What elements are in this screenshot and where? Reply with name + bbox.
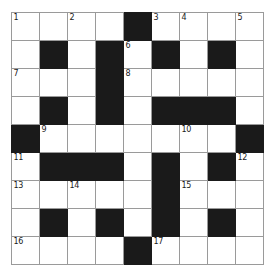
crossword-row: 131415 <box>12 181 264 209</box>
crossword-block-cell <box>96 69 124 97</box>
crossword-block-cell <box>208 153 236 181</box>
crossword-block-cell <box>96 209 124 237</box>
crossword-cell[interactable] <box>208 125 236 153</box>
crossword-cell[interactable] <box>180 237 208 265</box>
crossword-cell[interactable] <box>180 153 208 181</box>
cell-number-10: 10 <box>182 125 192 134</box>
crossword-block-cell <box>96 41 124 69</box>
crossword-block-cell <box>96 153 124 181</box>
crossword-cell[interactable] <box>236 69 264 97</box>
crossword-cell[interactable]: 16 <box>12 237 40 265</box>
crossword-cell[interactable]: 8 <box>124 69 152 97</box>
crossword-cell[interactable]: 5 <box>236 13 264 41</box>
crossword-cell[interactable] <box>208 69 236 97</box>
crossword-cell[interactable] <box>68 69 96 97</box>
crossword-block-cell <box>96 97 124 125</box>
crossword-row: 1617 <box>12 237 264 265</box>
crossword-cell[interactable] <box>124 97 152 125</box>
crossword-cell[interactable]: 7 <box>12 69 40 97</box>
crossword-block-cell <box>208 41 236 69</box>
crossword-cell[interactable] <box>96 13 124 41</box>
crossword-block-cell <box>68 153 96 181</box>
crossword-cell[interactable]: 11 <box>12 153 40 181</box>
crossword-cell[interactable] <box>236 181 264 209</box>
crossword-cell[interactable] <box>40 181 68 209</box>
cell-number-9: 9 <box>42 125 47 134</box>
crossword-grid[interactable]: 1234567891011121314151617 <box>11 12 264 265</box>
crossword-block-cell <box>152 41 180 69</box>
crossword-cell[interactable] <box>12 209 40 237</box>
crossword-block-cell <box>208 97 236 125</box>
crossword-row <box>12 209 264 237</box>
crossword-cell[interactable] <box>236 97 264 125</box>
crossword-block-cell <box>124 237 152 265</box>
crossword-cell[interactable]: 12 <box>236 153 264 181</box>
crossword-block-cell <box>180 97 208 125</box>
crossword-cell[interactable] <box>180 41 208 69</box>
crossword-cell[interactable] <box>208 181 236 209</box>
crossword-cell[interactable]: 14 <box>68 181 96 209</box>
crossword-cell[interactable] <box>68 125 96 153</box>
crossword-block-cell <box>208 209 236 237</box>
crossword-cell[interactable] <box>68 237 96 265</box>
crossword-cell[interactable]: 4 <box>180 13 208 41</box>
cell-number-5: 5 <box>238 13 243 22</box>
crossword-block-cell <box>12 125 40 153</box>
crossword-cell[interactable]: 10 <box>180 125 208 153</box>
crossword-cell[interactable] <box>152 125 180 153</box>
crossword-block-cell <box>124 13 152 41</box>
crossword-cell[interactable]: 13 <box>12 181 40 209</box>
cell-number-7: 7 <box>14 69 19 78</box>
crossword-cell[interactable]: 6 <box>124 41 152 69</box>
crossword-cell[interactable] <box>180 69 208 97</box>
crossword-cell[interactable] <box>236 237 264 265</box>
crossword-cell[interactable] <box>40 237 68 265</box>
crossword-cell[interactable] <box>40 69 68 97</box>
crossword-cell[interactable]: 1 <box>12 13 40 41</box>
crossword-cell[interactable]: 9 <box>40 125 68 153</box>
crossword-cell[interactable] <box>180 209 208 237</box>
crossword-cell[interactable] <box>124 181 152 209</box>
crossword-cell[interactable] <box>96 237 124 265</box>
crossword-cell[interactable] <box>40 13 68 41</box>
crossword-cell[interactable] <box>68 209 96 237</box>
crossword-cell[interactable] <box>124 209 152 237</box>
crossword-row: 6 <box>12 41 264 69</box>
crossword-row: 12345 <box>12 13 264 41</box>
crossword-cell[interactable] <box>208 13 236 41</box>
crossword-cell[interactable] <box>12 97 40 125</box>
cell-number-1: 1 <box>14 13 19 22</box>
crossword-cell[interactable] <box>208 237 236 265</box>
crossword-block-cell <box>152 181 180 209</box>
crossword-block-cell <box>152 153 180 181</box>
crossword-block-cell <box>236 125 264 153</box>
crossword-block-cell <box>152 97 180 125</box>
crossword-cell[interactable] <box>96 125 124 153</box>
crossword-grid-body: 1234567891011121314151617 <box>12 13 264 265</box>
cell-number-14: 14 <box>70 181 80 190</box>
cell-number-2: 2 <box>70 13 75 22</box>
crossword-cell[interactable] <box>96 181 124 209</box>
crossword-cell[interactable] <box>68 97 96 125</box>
crossword-cell[interactable]: 15 <box>180 181 208 209</box>
crossword-cell[interactable] <box>124 125 152 153</box>
cell-number-13: 13 <box>14 181 24 190</box>
crossword-block-cell <box>40 153 68 181</box>
crossword-cell[interactable] <box>12 41 40 69</box>
crossword-cell[interactable] <box>236 41 264 69</box>
crossword-cell[interactable]: 17 <box>152 237 180 265</box>
cell-number-3: 3 <box>154 13 159 22</box>
crossword-cell[interactable] <box>236 209 264 237</box>
crossword-cell[interactable] <box>124 153 152 181</box>
crossword-cell[interactable]: 3 <box>152 13 180 41</box>
crossword-row <box>12 97 264 125</box>
crossword-container: 1234567891011121314151617 <box>0 0 268 277</box>
cell-number-15: 15 <box>182 181 192 190</box>
crossword-cell[interactable] <box>68 41 96 69</box>
crossword-cell[interactable]: 2 <box>68 13 96 41</box>
crossword-block-cell <box>152 209 180 237</box>
crossword-cell[interactable] <box>152 69 180 97</box>
crossword-row: 910 <box>12 125 264 153</box>
cell-number-8: 8 <box>126 69 131 78</box>
crossword-row: 1112 <box>12 153 264 181</box>
